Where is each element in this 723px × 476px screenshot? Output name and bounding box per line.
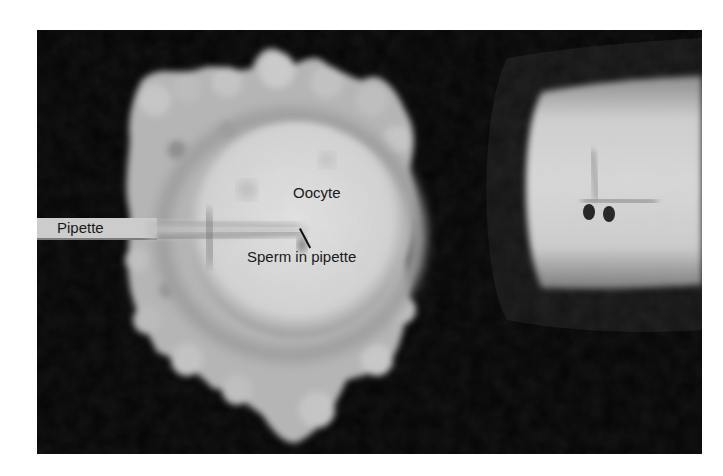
- label-oocyte: Oocyte: [293, 185, 341, 200]
- label-pipette: Pipette: [57, 220, 104, 235]
- label-sperm-in-pipette: Sperm in pipette: [247, 249, 356, 264]
- micrograph-illustration: [37, 30, 702, 454]
- micrograph-icsi: Pipette Oocyte Sperm in pipette: [37, 30, 702, 454]
